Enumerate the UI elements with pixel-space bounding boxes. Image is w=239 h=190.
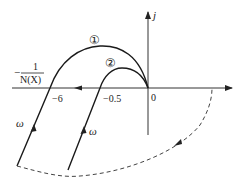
svg-text:1: 1 — [33, 61, 38, 72]
diagram-canvas: j 0 −6 −0.5 ① ② ω ω − 1 N(X) — [0, 0, 239, 190]
imag-axis-label: j — [151, 9, 156, 21]
curve-2 — [68, 68, 148, 170]
point-label-neg0-5: −0.5 — [103, 93, 121, 104]
curve-1-direction-arrow-icon — [31, 124, 37, 132]
point-label-neg6: −6 — [52, 93, 63, 104]
omega-label-1: ω — [16, 117, 24, 129]
dashed-arc-arrow-icon — [174, 139, 182, 146]
describing-function-arrow-icon — [74, 86, 82, 91]
svg-text:N(X): N(X) — [20, 74, 41, 86]
describing-function-label: − 1 N(X) — [14, 61, 44, 86]
omega-label-2: ω — [89, 125, 97, 137]
origin-label: 0 — [151, 92, 156, 103]
curve-2-direction-arrow-icon — [81, 126, 87, 134]
curve-2-label: ② — [105, 56, 116, 70]
curve-1-label: ① — [89, 33, 100, 47]
